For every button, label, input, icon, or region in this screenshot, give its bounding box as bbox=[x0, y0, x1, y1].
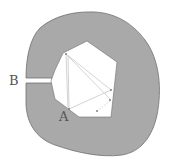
label-a: A bbox=[58, 109, 69, 124]
label-b: B bbox=[9, 73, 19, 88]
diagram-figure: B A bbox=[0, 0, 169, 164]
